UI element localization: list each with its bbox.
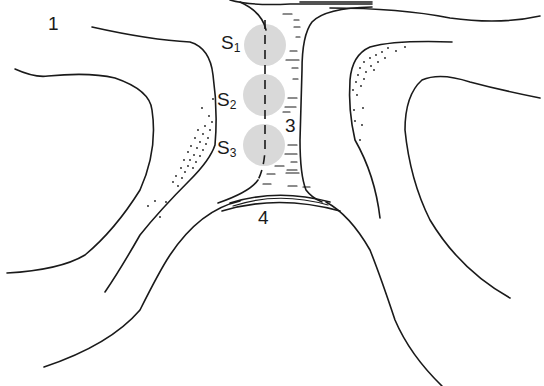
left-lower-contour xyxy=(218,180,258,203)
diagram-canvas: 1 S1 S2 S3 3 4 xyxy=(0,0,544,386)
label-s1-main: S xyxy=(221,32,234,53)
label-s2-main: S xyxy=(217,89,230,110)
circle-s2 xyxy=(243,74,285,116)
lower-arch-outline xyxy=(44,201,442,386)
label-region-1: 1 xyxy=(48,14,59,33)
left-tooth-contour xyxy=(92,27,216,292)
left-outer-contour xyxy=(7,69,154,273)
label-region-3: 3 xyxy=(285,116,296,135)
diagram-drawing xyxy=(0,0,544,386)
circle-s1 xyxy=(244,24,286,66)
right-tooth-contour xyxy=(350,42,452,218)
label-region-3-text: 3 xyxy=(285,115,296,136)
label-s1-sub: 1 xyxy=(234,41,241,55)
label-region-4-text: 4 xyxy=(258,207,269,228)
label-s2-sub: 2 xyxy=(230,98,237,112)
label-s1: S1 xyxy=(221,33,240,54)
left-stippling xyxy=(147,98,214,218)
label-s3-sub: 3 xyxy=(230,146,237,160)
label-region-4: 4 xyxy=(258,208,269,227)
label-s3-main: S xyxy=(217,137,230,158)
label-s3: S3 xyxy=(217,138,236,159)
right-stippling xyxy=(352,46,406,141)
right-interproximal-outline xyxy=(300,7,372,202)
label-s2: S2 xyxy=(217,90,236,111)
label-region-1-text: 1 xyxy=(48,13,59,34)
